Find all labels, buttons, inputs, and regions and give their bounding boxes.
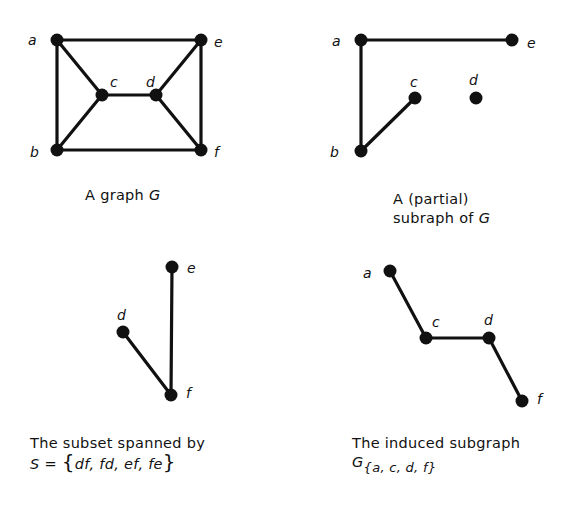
left-brace: { (364, 460, 373, 475)
caption-line-1: A (partial) (393, 190, 490, 209)
equals-sign: = (40, 456, 62, 472)
vertex-d (117, 326, 130, 339)
vertex-label-d: d (484, 312, 493, 328)
edge-ac (390, 271, 426, 338)
symbol-g: G (352, 454, 364, 470)
vertex-e (166, 261, 179, 274)
vertex-label-c: c (432, 314, 440, 330)
edge-ac (57, 40, 102, 95)
vertex-c (409, 92, 422, 105)
vertex-e (506, 34, 519, 47)
vertex-label-a: a (363, 265, 372, 281)
edge-df (156, 95, 201, 150)
subscript: {a, c, d, f} (364, 460, 437, 475)
vertex-f (516, 395, 529, 408)
edge-df (489, 338, 522, 401)
vertex-label-f: f (214, 144, 221, 160)
vertex-d (470, 92, 483, 105)
graph-diagrams: aecdbfaecdbedfacdf (0, 0, 567, 505)
edge-set: df, fd, ef, fe (75, 456, 163, 472)
symbol-g: G (479, 210, 491, 226)
vertex-a (384, 265, 397, 278)
vertex-c (96, 89, 109, 102)
vertex-label-a: a (332, 33, 341, 49)
vertex-b (355, 145, 368, 158)
right-brace: } (163, 450, 176, 474)
vertex-label-f: f (186, 385, 193, 401)
edge-df (123, 332, 171, 395)
vertex-label-e: e (214, 34, 223, 50)
vertex-e (195, 34, 208, 47)
vertex-a (51, 34, 64, 47)
vertex-label-e: e (187, 260, 196, 276)
caption-text: subraph of (393, 210, 479, 226)
caption-line-1: The subset spanned by (30, 434, 205, 453)
edge-de (156, 40, 201, 95)
vertex-set: a, c, d, f (372, 460, 428, 475)
vertex-f (195, 144, 208, 157)
vertex-a (355, 34, 368, 47)
vertex-d (150, 89, 163, 102)
vertex-f (165, 389, 178, 402)
left-brace: { (62, 450, 75, 474)
panel-partial-subgraph: aecdb (330, 33, 536, 160)
panel-induced-subgraph: acdf (363, 265, 544, 408)
caption-line-2: S = {df, fd, ef, fe} (30, 453, 205, 474)
panel-spanned-subset: edf (117, 260, 196, 402)
caption-spanned-subset: The subset spanned by S = {df, fd, ef, f… (30, 434, 205, 474)
vertex-label-e: e (527, 35, 536, 51)
right-brace: } (428, 460, 437, 475)
caption-induced-subgraph: The induced subgraph G{a, c, d, f} (352, 434, 520, 472)
symbol-g: G (149, 187, 161, 203)
edge-bc (57, 95, 102, 150)
edge-bc (361, 98, 415, 151)
vertex-label-b: b (30, 144, 39, 160)
vertex-b (51, 144, 64, 157)
vertex-d (483, 332, 496, 345)
symbol-s: S (30, 456, 40, 472)
vertex-label-a: a (28, 32, 37, 48)
caption-graph-g: A graph G (85, 186, 161, 205)
panel-graph-G: aecdbf (28, 32, 223, 160)
caption-line-2: subraph of G (393, 209, 490, 228)
vertex-c (420, 332, 433, 345)
edge-ef (171, 267, 172, 395)
vertex-label-d: d (117, 307, 126, 323)
vertex-label-f: f (537, 391, 544, 407)
vertex-label-c: c (110, 74, 118, 90)
vertex-label-d: d (146, 74, 155, 90)
vertex-label-c: c (410, 74, 418, 90)
caption-partial-subgraph: A (partial) subraph of G (393, 190, 490, 228)
caption-text: A graph (85, 187, 149, 203)
caption-line-2: G{a, c, d, f} (352, 453, 520, 472)
vertex-label-b: b (330, 144, 339, 160)
vertex-label-d: d (469, 72, 478, 88)
caption-line-1: The induced subgraph (352, 434, 520, 453)
